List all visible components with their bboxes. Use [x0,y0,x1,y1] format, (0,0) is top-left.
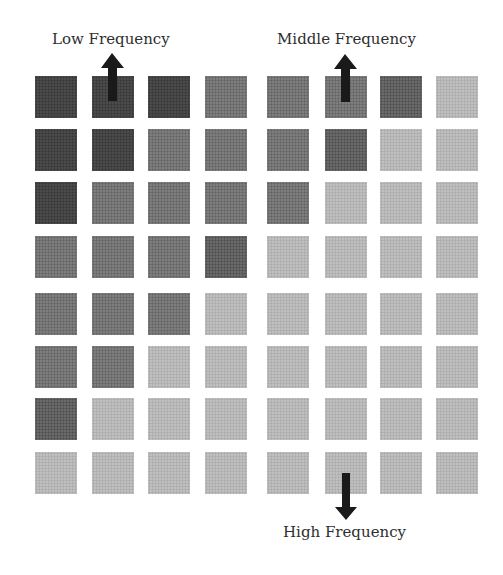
coefficient-block [35,452,77,494]
coefficient-block [436,182,478,224]
coefficient-block [380,76,422,118]
coefficient-block [148,398,190,440]
middle-frequency-label: Middle Frequency [277,32,416,47]
coefficient-block [35,346,77,388]
coefficient-block [325,129,367,171]
up-arrow-icon [100,52,126,104]
coefficient-block [325,346,367,388]
coefficient-block [92,129,134,171]
coefficient-block [205,452,247,494]
coefficient-block [205,236,247,278]
coefficient-block [148,293,190,335]
low-frequency-label: Low Frequency [52,32,170,47]
coefficient-block [380,236,422,278]
coefficient-block [92,346,134,388]
coefficient-block [92,452,134,494]
coefficient-block [35,236,77,278]
coefficient-block [267,293,309,335]
coefficient-block [92,182,134,224]
coefficient-block [436,398,478,440]
coefficient-block [380,129,422,171]
coefficient-block [148,236,190,278]
down-arrow-icon [334,472,358,522]
coefficient-block [205,293,247,335]
coefficient-block [35,293,77,335]
coefficient-block [148,452,190,494]
coefficient-block [436,236,478,278]
coefficient-block [380,182,422,224]
coefficient-block [380,398,422,440]
coefficient-block [148,346,190,388]
coefficient-block [92,293,134,335]
coefficient-block [267,452,309,494]
coefficient-block [380,346,422,388]
coefficient-block [436,452,478,494]
coefficient-block [267,76,309,118]
coefficient-block [380,293,422,335]
coefficient-block [436,293,478,335]
coefficient-block [436,346,478,388]
coefficient-block [148,182,190,224]
coefficient-block [205,76,247,118]
coefficient-block [267,129,309,171]
coefficient-block [205,346,247,388]
coefficient-block [436,129,478,171]
coefficient-block [325,398,367,440]
coefficient-block [205,182,247,224]
coefficient-block [205,129,247,171]
coefficient-block [35,76,77,118]
coefficient-block [148,76,190,118]
coefficient-block [325,182,367,224]
coefficient-block [325,293,367,335]
coefficient-block [148,129,190,171]
coefficient-block [267,398,309,440]
coefficient-block [380,452,422,494]
coefficient-block [92,236,134,278]
coefficient-block [325,236,367,278]
up-arrow-icon [333,53,359,105]
coefficient-block [35,398,77,440]
coefficient-block [205,398,247,440]
coefficient-block [436,76,478,118]
coefficient-block [267,236,309,278]
coefficient-block [35,129,77,171]
high-frequency-label: High Frequency [283,525,406,540]
coefficient-block [267,182,309,224]
coefficient-block [35,182,77,224]
coefficient-block [267,346,309,388]
coefficient-block [92,398,134,440]
